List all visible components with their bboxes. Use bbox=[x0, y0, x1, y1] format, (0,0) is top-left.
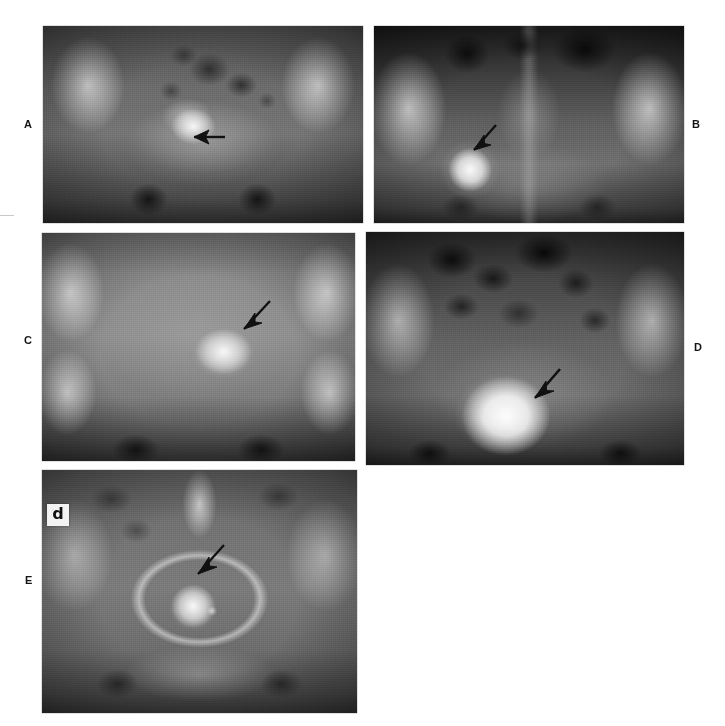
xray-panel-d bbox=[366, 232, 684, 465]
xray-panel-a bbox=[43, 26, 363, 223]
panel-label-e: E bbox=[25, 575, 33, 586]
panel-label-b: B bbox=[692, 119, 700, 130]
radiographic-side-marker: p bbox=[47, 504, 69, 526]
panel-label-d: D bbox=[694, 342, 702, 353]
film-grain-b bbox=[374, 26, 684, 223]
panel-label-c: C bbox=[24, 335, 32, 346]
figure-root: A B C D bbox=[0, 0, 725, 726]
film-grain-d bbox=[366, 232, 684, 465]
xray-panel-e: p bbox=[42, 470, 357, 713]
scan-artifact-line bbox=[0, 215, 14, 216]
panel-label-a: A bbox=[24, 119, 32, 130]
xray-panel-c bbox=[42, 233, 355, 461]
film-grain-a bbox=[43, 26, 363, 223]
xray-panel-b bbox=[374, 26, 684, 223]
film-grain-e bbox=[42, 470, 357, 713]
film-grain-c bbox=[42, 233, 355, 461]
